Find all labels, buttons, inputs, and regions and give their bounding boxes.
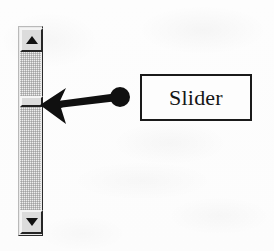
callout-label-box: Slider bbox=[140, 74, 252, 121]
figure-canvas: Slider bbox=[0, 0, 274, 251]
callout-leader bbox=[0, 0, 274, 251]
callout-label-text: Slider bbox=[169, 87, 223, 109]
leader-line bbox=[58, 93, 118, 108]
leader-dot bbox=[110, 87, 130, 107]
